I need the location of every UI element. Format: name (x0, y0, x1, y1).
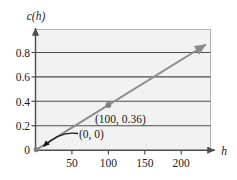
linear-function-chart: 0 0.2 0.4 0.6 0.8 50 100 150 200 c(h) h … (0, 0, 237, 180)
y-tick-label-0.6: 0.6 (16, 71, 31, 83)
x-tick-label-100: 100 (100, 157, 118, 169)
annotation-origin: (0, 0) (79, 128, 104, 141)
data-point-origin (34, 147, 39, 152)
y-tick-label-0: 0 (24, 144, 30, 156)
x-tick-label-50: 50 (66, 157, 78, 169)
annotation-point-100-036: (100, 0.36) (95, 113, 146, 126)
plot-background (36, 30, 211, 151)
x-tick-label-200: 200 (173, 157, 191, 169)
y-axis-label: c(h) (27, 10, 46, 23)
y-tick-label-0.2: 0.2 (16, 120, 31, 132)
x-tick-label-150: 150 (136, 157, 154, 169)
x-axis-label: h (221, 145, 227, 157)
y-tick-label-0.4: 0.4 (16, 96, 31, 108)
chart-figure: 0 0.2 0.4 0.6 0.8 50 100 150 200 c(h) h … (0, 0, 237, 180)
data-point-100-036 (106, 102, 112, 108)
y-tick-label-0.8: 0.8 (16, 47, 31, 59)
